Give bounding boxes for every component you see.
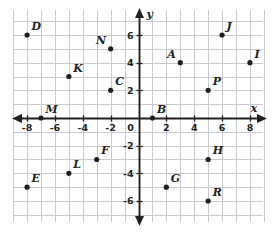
coordinate-plane-svg: -8-6-4-202468642-2-4-6 xy DJNAIKCPMBFHLE… — [0, 0, 279, 234]
point-label-h: H — [212, 144, 224, 157]
plotted-points: DJNAIKCPMBFHLEGR — [24, 20, 260, 204]
y-tick-label: 6 — [127, 30, 134, 41]
axes — [12, 8, 267, 226]
coordinate-plane-graph: -8-6-4-202468642-2-4-6 xy DJNAIKCPMBFHLE… — [0, 0, 279, 234]
point-label-m: M — [44, 103, 58, 116]
x-tick-label: -8 — [22, 122, 33, 133]
point-label-i: I — [253, 48, 260, 61]
y-axis-arrow-up — [135, 8, 144, 18]
y-tick-label: 4 — [127, 57, 134, 68]
y-axis-label: y — [146, 8, 155, 21]
point-marker-g[interactable] — [164, 185, 169, 190]
point-label-a: A — [166, 48, 176, 61]
x-axis-arrow-right — [257, 114, 267, 123]
point-marker-m[interactable] — [38, 115, 43, 120]
point-marker-e[interactable] — [24, 185, 29, 190]
x-tick-label: 0 — [127, 122, 134, 133]
point-label-b: B — [156, 103, 166, 116]
x-tick-label: 6 — [219, 122, 226, 133]
point-label-p: P — [212, 75, 222, 88]
point-label-r: R — [212, 186, 222, 199]
point-label-d: D — [31, 20, 42, 33]
point-marker-a[interactable] — [178, 60, 183, 65]
y-tick-label: -2 — [123, 140, 134, 151]
point-marker-n[interactable] — [108, 46, 113, 51]
y-tick-label: -6 — [123, 195, 134, 206]
point-label-e: E — [31, 172, 41, 185]
x-tick-label: 2 — [163, 122, 170, 133]
point-marker-d[interactable] — [24, 32, 29, 37]
point-marker-p[interactable] — [206, 88, 211, 93]
x-tick-label: -6 — [50, 122, 61, 133]
plotted-point[interactable]: K — [66, 62, 83, 80]
y-axis-arrow-down — [135, 216, 144, 226]
point-label-n: N — [95, 34, 107, 47]
x-axis-label: x — [250, 102, 258, 115]
x-tick-label: 4 — [191, 122, 198, 133]
point-marker-i[interactable] — [247, 60, 252, 65]
point-marker-f[interactable] — [94, 157, 99, 162]
point-marker-j[interactable] — [219, 32, 224, 37]
point-label-g: G — [171, 172, 180, 185]
plotted-point[interactable]: J — [219, 20, 232, 38]
plotted-point[interactable]: R — [206, 186, 222, 204]
point-marker-c[interactable] — [108, 88, 113, 93]
point-label-j: J — [225, 20, 233, 33]
y-tick-label: -4 — [123, 168, 134, 179]
x-tick-label: -2 — [105, 122, 116, 133]
y-tick-label: 2 — [127, 85, 134, 96]
point-marker-l[interactable] — [66, 171, 71, 176]
point-label-l: L — [72, 158, 81, 171]
x-tick-label: -4 — [77, 122, 88, 133]
point-marker-r[interactable] — [206, 198, 211, 203]
point-label-c: C — [115, 75, 124, 88]
point-marker-k[interactable] — [66, 74, 71, 79]
point-marker-b[interactable] — [150, 115, 155, 120]
x-tick-label: 8 — [247, 122, 254, 133]
axis-names: xy — [146, 8, 258, 115]
point-label-f: F — [100, 144, 110, 157]
point-label-k: K — [72, 62, 83, 75]
point-marker-h[interactable] — [206, 157, 211, 162]
plotted-point[interactable]: I — [247, 48, 260, 66]
